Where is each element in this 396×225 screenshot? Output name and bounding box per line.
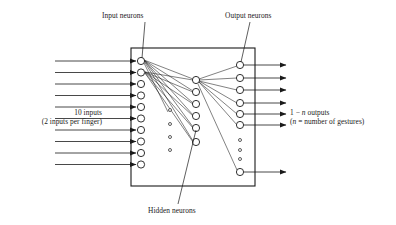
outputs-count-label: 1 − n outputs [290,108,364,117]
output-layer-ellipsis-dots [239,139,242,161]
ellipsis-dot [239,149,242,152]
leader-hidden-neurons [178,130,196,204]
input-neurons-label: Input neurons [102,11,144,20]
ellipsis-dot [239,139,242,142]
output-neuron [236,86,243,93]
output-neurons-label: Output neurons [225,11,271,20]
output-neuron [236,110,243,117]
output-neuron [236,99,243,106]
input-neuron [137,103,144,110]
input-neuron [137,80,144,87]
leader-input-neurons [142,22,145,58]
hidden-neuron [192,88,199,95]
hidden-neuron [192,100,199,107]
hidden-to-output-connections [198,66,237,170]
hidden-neuron [192,112,199,119]
outputs-count-suffix: outputs [306,108,330,117]
input-neuron [137,149,144,156]
inputs-annotation-block: 10 inputs (2 inputs per finger) [14,108,102,127]
outputs-annotation-block: 1 − n outputs (n = number of gestures) [290,108,364,127]
output-neuron [236,74,243,81]
input-neuron [137,161,144,168]
input-neuron-circles [137,57,144,168]
ellipsis-dot [169,123,172,126]
leader-output-neurons [241,22,250,62]
ellipsis-dot [169,149,172,152]
outputs-detail-suffix: = number of gestures) [296,117,364,126]
output-neuron [236,168,243,175]
ellipsis-dot [169,136,172,139]
input-neuron [137,126,144,133]
inputs-count-label: 10 inputs [14,108,102,117]
ellipsis-dot [169,109,172,112]
hidden-neurons-label: Hidden neurons [148,206,196,215]
figure-container: Input neurons Output neurons Hidden neur… [0,0,396,225]
input-neuron [137,57,144,64]
hidden-neuron-circles [192,76,199,145]
input-neuron [137,138,144,145]
hidden-layer-ellipsis-dots [169,109,172,152]
input-to-hidden-connections [144,60,193,142]
output-neuron [236,61,243,68]
inputs-detail-text: (2 inputs per finger) [42,117,102,126]
output-neuron [236,121,243,128]
ellipsis-dot [239,158,242,161]
inputs-detail-label: (2 inputs per finger) [14,117,102,126]
output-arrow-group [244,65,286,172]
input-neuron [137,115,144,122]
hidden-neuron [192,76,199,83]
outputs-detail-label: (n = number of gestures) [290,117,364,126]
outputs-count-prefix: 1 − [290,108,302,117]
input-neuron [137,92,144,99]
input-neuron [137,69,144,76]
